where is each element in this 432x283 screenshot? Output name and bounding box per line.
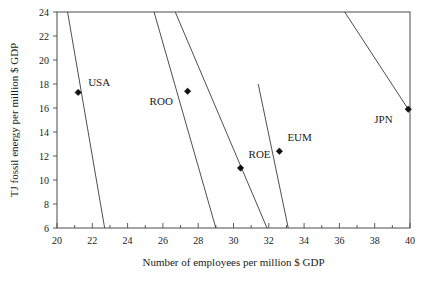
x-axis-tick-label: 30 (229, 235, 239, 246)
x-axis-tick-label: 40 (405, 235, 415, 246)
series-line-roe (175, 12, 267, 228)
x-axis-tick-label: 36 (334, 235, 344, 246)
x-axis-tick-label: 32 (264, 235, 274, 246)
x-axis-tick-label: 24 (123, 235, 133, 246)
scatter-plot: 2022242628303234363840681012141618202224… (0, 0, 432, 283)
chart-container: 2022242628303234363840681012141618202224… (0, 0, 432, 283)
series-line-roo (154, 12, 216, 228)
data-point-label-roe: ROE (249, 148, 271, 160)
data-point-label-usa: USA (88, 76, 110, 88)
x-axis-tick-label: 38 (370, 235, 380, 246)
y-axis-tick-label: 8 (44, 199, 49, 210)
data-point-label-jpn: JPN (374, 113, 392, 125)
data-point-roo (184, 88, 190, 94)
data-point-eum (276, 148, 282, 154)
x-axis-tick-label: 28 (193, 235, 203, 246)
data-point-usa (75, 89, 81, 95)
x-axis-tick-label: 22 (87, 235, 97, 246)
y-axis-tick-label: 6 (44, 223, 49, 234)
y-axis-tick-label: 22 (39, 31, 49, 42)
y-axis-tick-label: 20 (39, 55, 49, 66)
series-line-usa (68, 12, 105, 228)
y-axis-title: TJ fossil energy per million $ GDP (8, 43, 20, 197)
y-axis-tick-label: 12 (39, 151, 49, 162)
x-axis-title: Number of employees per million $ GDP (142, 256, 324, 268)
data-point-label-roo: ROO (150, 95, 173, 107)
x-axis-tick-label: 26 (158, 235, 168, 246)
y-axis-tick-label: 16 (39, 103, 49, 114)
series-line-jpn (345, 12, 409, 109)
y-axis-tick-label: 24 (39, 7, 49, 18)
plot-frame (57, 12, 410, 228)
data-point-label-eum: EUM (287, 131, 312, 143)
x-axis-tick-label: 20 (52, 235, 62, 246)
y-axis-tick-label: 10 (39, 175, 49, 186)
y-axis-tick-label: 18 (39, 79, 49, 90)
y-axis-tick-label: 14 (39, 127, 49, 138)
x-axis-tick-label: 34 (299, 235, 309, 246)
